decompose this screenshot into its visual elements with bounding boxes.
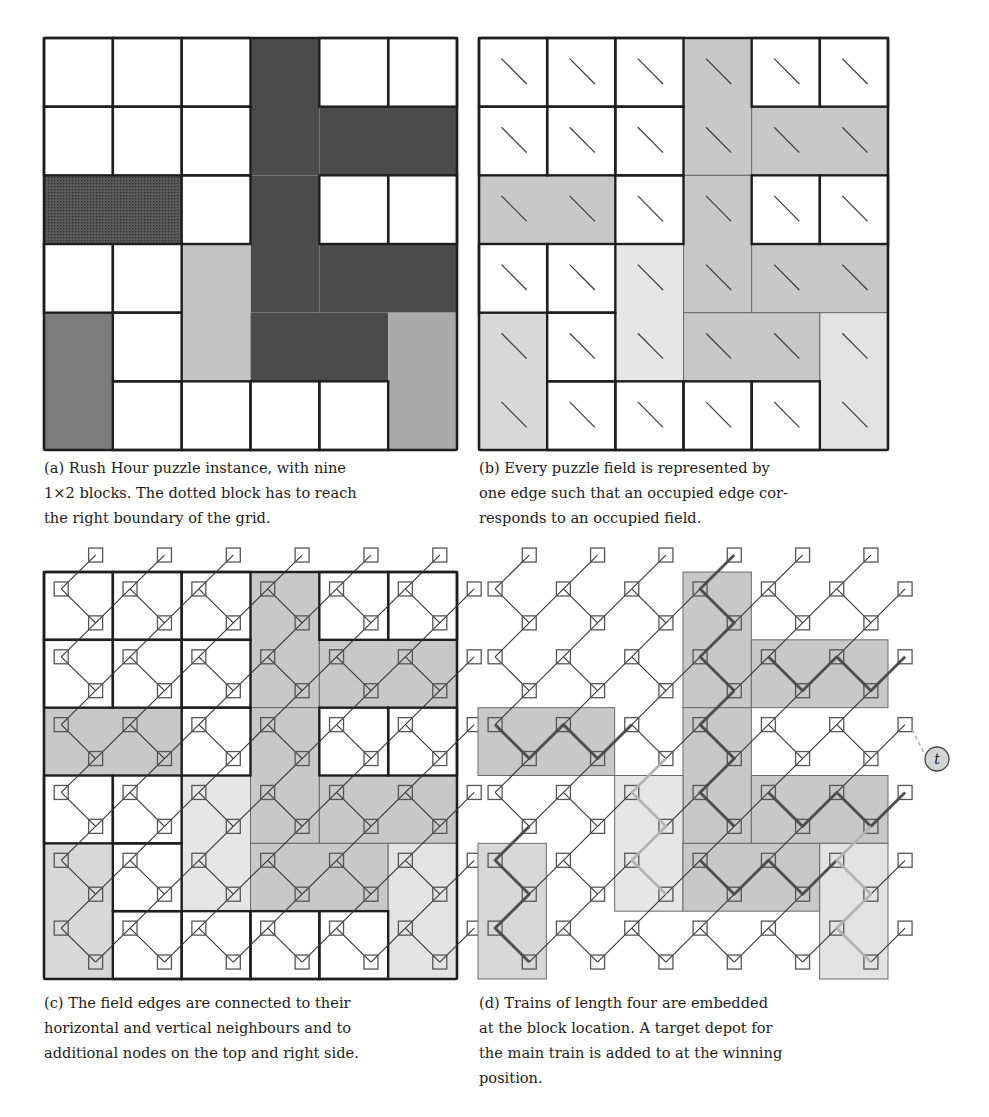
block: [684, 38, 752, 175]
empty-cell: [615, 381, 683, 450]
caption-d-line: the main train is added to at the winnin…: [479, 1040, 889, 1065]
empty-cell: [615, 38, 683, 107]
empty-cell: [113, 244, 182, 313]
empty-cell: [113, 381, 182, 450]
caption-b-line: (b) Every puzzle field is represented by: [479, 455, 889, 480]
graph-edge: [268, 928, 302, 962]
field-edge: [570, 402, 595, 427]
empty-cell: [547, 381, 615, 450]
field-edge: [570, 127, 595, 152]
block: [44, 175, 182, 244]
graph-edge: [130, 928, 164, 962]
empty-cell: [44, 244, 113, 313]
graph-edge: [495, 623, 529, 657]
field-edge: [774, 402, 799, 427]
block: [388, 313, 457, 450]
caption-c-line: additional nodes on the top and right si…: [44, 1040, 459, 1065]
block: [44, 313, 113, 450]
graph-edge: [666, 928, 700, 962]
empty-cell: [479, 38, 547, 107]
graph-edge: [405, 725, 439, 759]
field-edge: [570, 333, 595, 358]
empty-cell: [479, 107, 547, 176]
graph-edge: [337, 725, 371, 759]
graph-edge: [495, 792, 529, 826]
empty-cell: [388, 175, 457, 244]
empty-cell: [44, 107, 113, 176]
empty-cell: [319, 38, 388, 107]
empty-cell: [319, 381, 388, 450]
block: [684, 175, 752, 312]
block: [752, 244, 888, 313]
empty-cell: [684, 381, 752, 450]
graph-edge: [768, 725, 802, 759]
empty-cell: [547, 38, 615, 107]
block: [615, 244, 683, 381]
graph-edge: [495, 657, 529, 691]
empty-cell: [547, 107, 615, 176]
caption-c-line: horizontal and vertical neighbours and t…: [44, 1015, 459, 1040]
field-edge: [501, 59, 526, 84]
block: [251, 38, 320, 175]
graph-edge: [837, 589, 871, 623]
block: [251, 313, 389, 382]
graph-edge: [130, 657, 164, 691]
graph-edge: [598, 657, 632, 691]
empty-cell: [44, 38, 113, 107]
block: [319, 107, 457, 176]
field-edge: [842, 196, 867, 221]
empty-cell: [820, 38, 888, 107]
graph-edge: [563, 826, 597, 860]
panel-b-edge-grid: [479, 38, 888, 450]
graph-edge: [632, 657, 666, 691]
graph-edge: [337, 928, 371, 962]
graph-edge: [130, 860, 164, 894]
empty-cell: [182, 107, 251, 176]
panel-a-puzzle-grid: [44, 38, 457, 450]
panel-d-train-embedding: t: [478, 548, 949, 979]
field-edge: [638, 196, 663, 221]
caption-a-line: the right boundary of the grid.: [44, 505, 459, 530]
graph-edge: [632, 555, 666, 589]
block: [319, 244, 457, 313]
caption-a-line: 1×2 blocks. The dotted block has to reac…: [44, 480, 459, 505]
graph-edge: [61, 792, 95, 826]
empty-cell: [182, 175, 251, 244]
graph-edge: [61, 589, 95, 623]
graph-edge: [199, 589, 233, 623]
graph-edge: [734, 928, 768, 962]
block: [479, 313, 547, 450]
caption-d-line: (d) Trains of length four are embedded: [479, 990, 889, 1015]
field-edge: [501, 265, 526, 290]
graph-edge: [130, 589, 164, 623]
graph-edge: [768, 555, 802, 589]
graph-edge: [632, 589, 666, 623]
field-edge: [774, 196, 799, 221]
graph-edge: [495, 589, 529, 623]
caption-c: (c) The field edges are connected to the…: [44, 990, 459, 1065]
graph-edge: [563, 623, 597, 657]
graph-edge: [130, 792, 164, 826]
graph-edge: [529, 589, 563, 623]
caption-a-line: (a) Rush Hour puzzle instance, with nine: [44, 455, 459, 480]
graph-edge: [563, 860, 597, 894]
graph-edge: [563, 555, 597, 589]
caption-a: (a) Rush Hour puzzle instance, with nine…: [44, 455, 459, 530]
empty-cell: [752, 38, 820, 107]
graph-edge: [803, 589, 837, 623]
caption-d-line: at the block location. A target depot fo…: [479, 1015, 889, 1040]
field-edge: [638, 127, 663, 152]
graph-edge: [199, 725, 233, 759]
panel-c-connected-graph: [44, 548, 481, 979]
graph-edge: [529, 792, 563, 826]
graph-edge: [199, 928, 233, 962]
empty-cell: [479, 244, 547, 313]
empty-cell: [615, 175, 683, 244]
empty-cell: [113, 107, 182, 176]
empty-cell: [820, 175, 888, 244]
field-edge: [842, 59, 867, 84]
empty-cell: [251, 381, 320, 450]
graph-edge: [803, 725, 837, 759]
field-edge: [570, 59, 595, 84]
graph-edge: [871, 589, 905, 623]
